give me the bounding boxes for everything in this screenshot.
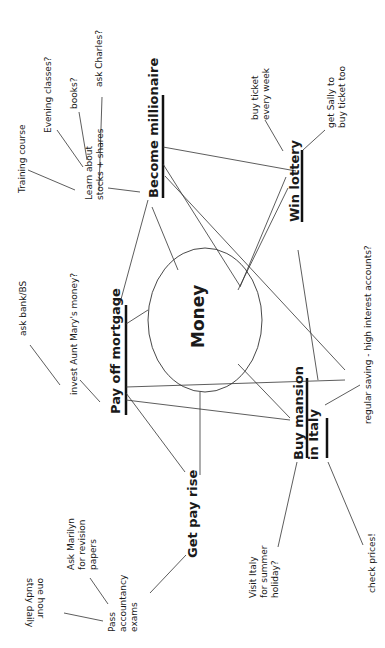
node-pass-accountancy: Pass accountancy exams	[107, 575, 140, 632]
node-visit-italy-line-1: Visit Italy	[248, 546, 259, 598]
node-ask-marilyn: Ask Marilyn for revision papers	[66, 518, 99, 570]
node-pass-line-3: exams	[129, 575, 140, 632]
node-buy-ticket-every-week: buy ticket every week	[250, 68, 272, 120]
center-node-label: Money	[193, 285, 204, 348]
node-learn-about-line-1: Learn about	[84, 129, 95, 200]
node-get-sally-line-2: buy ticket too	[337, 66, 348, 128]
node-invest-aunt-mary: invest Aunt Mary's money?	[69, 273, 80, 395]
node-visit-italy: Visit Italy for summer holiday?	[248, 546, 281, 598]
branch-buy-mansion-line-1: Buy mansion	[291, 366, 306, 460]
node-get-sally: get Sally to buy ticket too	[326, 66, 348, 128]
node-evening-classes: Evening classes?	[43, 57, 54, 133]
node-one-hour-line-2: study daily	[24, 578, 35, 627]
node-training-course: Training course	[17, 125, 28, 193]
node-check-prices: check prices!	[367, 533, 378, 593]
node-pass-line-1: Pass	[107, 575, 118, 632]
node-one-hour-line-1: one hour	[35, 578, 46, 627]
branch-get-pay-rise: Get pay rise	[185, 470, 200, 558]
node-ask-marilyn-line-2: for revision	[77, 518, 88, 570]
node-learn-about-line-2: stocks + shares	[95, 129, 106, 200]
node-one-hour-study: one hour study daily	[24, 578, 46, 627]
branch-buy-mansion: Buy mansion in Italy	[291, 366, 321, 460]
branch-buy-mansion-line-2: in Italy	[306, 366, 321, 460]
node-books: books?	[69, 78, 80, 109]
node-learn-about: Learn about stocks + shares	[84, 129, 106, 200]
node-visit-italy-line-3: holiday?	[270, 546, 281, 598]
node-ask-marilyn-line-1: Ask Marilyn	[66, 518, 77, 570]
branch-become-millionaire: Become millionaire	[146, 58, 161, 198]
node-ask-marilyn-line-3: papers	[88, 518, 99, 570]
node-ask-bank: ask bank/BS	[18, 281, 29, 336]
node-get-sally-line-1: get Sally to	[326, 66, 337, 128]
branch-win-lottery: Win lottery	[287, 140, 302, 222]
node-ask-charles: ask Charles?	[94, 30, 105, 87]
node-buy-ticket-line-2: every week	[261, 68, 272, 120]
branch-pay-off-mortgage: Pay off mortgage	[108, 288, 123, 414]
node-pass-line-2: accountancy	[118, 575, 129, 632]
node-regular-saving: regular saving - high interest accounts?	[363, 245, 374, 424]
node-visit-italy-line-2: for summer	[259, 546, 270, 598]
node-buy-ticket-line-1: buy ticket	[250, 68, 261, 120]
